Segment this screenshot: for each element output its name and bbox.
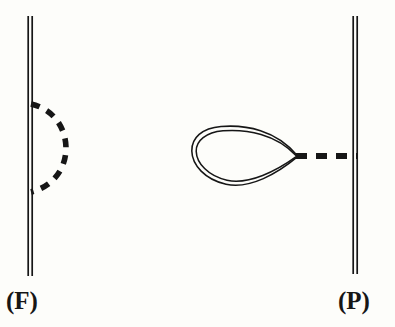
figure-canvas: (F) (P) xyxy=(0,0,395,327)
panel-f-group xyxy=(28,16,66,276)
p-teardrop-loop xyxy=(192,126,297,185)
f-dashed-semicircle xyxy=(31,104,66,192)
feynman-diagram-svg xyxy=(0,0,395,327)
panel-p-group xyxy=(192,16,357,274)
f-propagator-double-line xyxy=(28,16,32,276)
panel-label-p: (P) xyxy=(338,288,370,313)
p-propagator-double-line xyxy=(353,16,357,274)
panel-label-f: (F) xyxy=(6,288,38,313)
p-loop-inner-curve xyxy=(196,130,296,181)
